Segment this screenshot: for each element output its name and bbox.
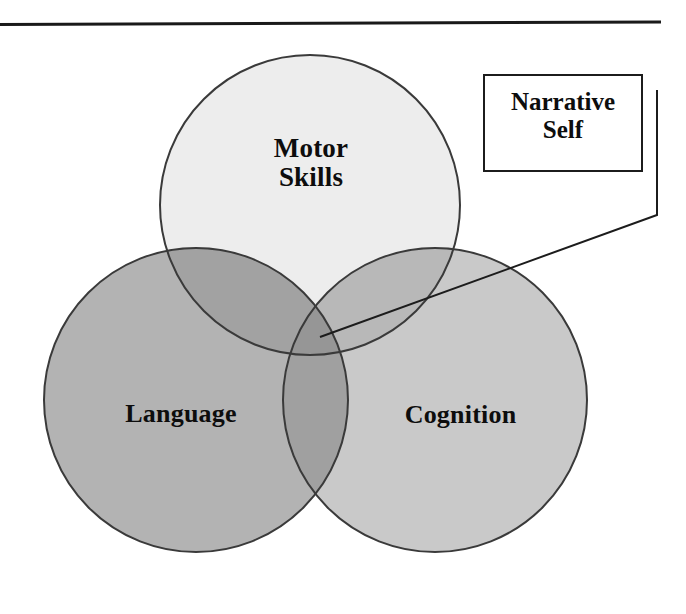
narrative-self-callout-label: Narrative Self xyxy=(485,88,641,144)
narrative-self-callout-box: Narrative Self xyxy=(483,74,643,172)
venn-diagram-figure: Motor Skills Language Cognition Narrativ… xyxy=(0,0,686,614)
